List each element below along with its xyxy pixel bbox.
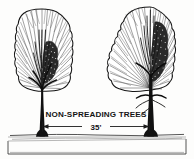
tree-spacing-diagram: Non-spreading trees spacing diagram <box>0 0 194 159</box>
diagram-canvas: NON-SPREADING TREES 35' <box>0 0 194 159</box>
dimension-value-label: 35' <box>91 123 102 132</box>
caption-label: NON-SPREADING TREES <box>46 110 147 119</box>
